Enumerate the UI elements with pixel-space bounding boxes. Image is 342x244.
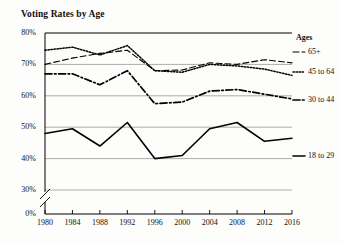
x-axis-tick-label: 1984	[57, 218, 87, 227]
x-axis-ticks	[45, 210, 292, 214]
x-axis-tick-label: 2012	[250, 218, 280, 227]
series-line	[45, 122, 292, 158]
chart-canvas	[0, 0, 342, 244]
series-label: 18 to 29	[308, 151, 334, 160]
y-axis-tick-label: 0%	[10, 209, 36, 218]
y-axis-tick-label: 30%	[10, 185, 36, 194]
x-axis-tick-label: 2008	[222, 218, 252, 227]
series-line	[45, 71, 292, 104]
x-axis-tick-label: 2016	[277, 218, 307, 227]
x-axis-tick-label: 1996	[140, 218, 170, 227]
y-axis-tick-label: 40%	[10, 154, 36, 163]
series-line	[45, 46, 292, 76]
axes	[45, 33, 292, 214]
legend-title: Ages	[296, 33, 312, 42]
series-label: 65+	[308, 47, 321, 56]
y-axis-tick-label: 60%	[10, 91, 36, 100]
series-lines	[45, 46, 292, 159]
x-axis-tick-label: 1988	[85, 218, 115, 227]
y-axis-tick-label: 70%	[10, 59, 36, 68]
x-axis-tick-label: 2000	[167, 218, 197, 227]
x-axis-tick-label: 2004	[195, 218, 225, 227]
series-label: 45 to 64	[308, 67, 334, 76]
y-axis-tick-label: 80%	[10, 28, 36, 37]
legend-line-samples	[293, 52, 305, 156]
series-label: 30 to 44	[308, 95, 334, 104]
y-axis-tick-label: 50%	[10, 122, 36, 131]
chart-figure: Voting Rates by Age 0%30%40%50%60%70%80%…	[0, 0, 342, 244]
x-axis-tick-label: 1980	[30, 218, 60, 227]
x-axis-tick-label: 1992	[112, 218, 142, 227]
